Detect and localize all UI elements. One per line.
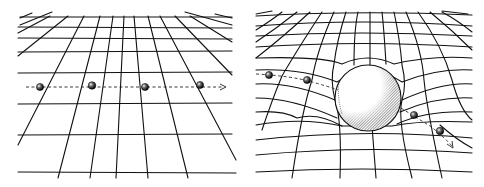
curved-spacetime-panel bbox=[242, 0, 484, 187]
ball bbox=[410, 111, 417, 118]
massive-sphere bbox=[335, 65, 401, 131]
ball bbox=[88, 82, 96, 90]
curved-trajectory-out bbox=[401, 108, 452, 146]
ball bbox=[265, 71, 272, 78]
ball bbox=[141, 83, 148, 90]
ball bbox=[196, 81, 203, 88]
curved-grid-illustration bbox=[242, 0, 484, 187]
arrow-head-icon bbox=[447, 141, 453, 148]
ball bbox=[436, 127, 444, 135]
flat-grid-illustration bbox=[0, 0, 242, 187]
ball bbox=[36, 83, 43, 90]
flat-spacetime-panel bbox=[0, 0, 242, 187]
flat-grid bbox=[18, 12, 236, 178]
ball bbox=[303, 76, 310, 83]
